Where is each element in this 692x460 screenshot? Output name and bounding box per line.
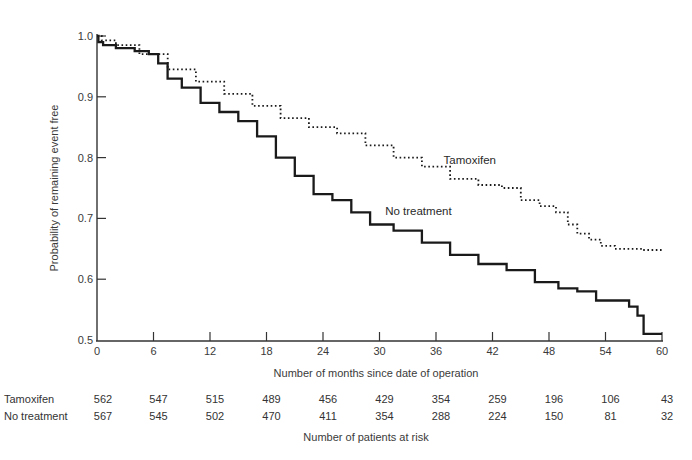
y-tick-label: 1.0 [78, 30, 93, 42]
x-tick-label: 12 [204, 345, 216, 357]
at-risk-value: 562 [94, 393, 112, 405]
series-label-no-treatment: No treatment [385, 205, 452, 217]
x-tick-label: 30 [373, 345, 385, 357]
y-tick-label: 0.7 [78, 212, 93, 224]
series-label-tamoxifen: Tamoxifen [444, 154, 496, 166]
x-axis-title: Number of months since date of operation [274, 367, 479, 379]
curve-no-treatment [97, 36, 662, 334]
y-tick-label: 0.5 [78, 334, 93, 346]
x-axis-ticks: 06121824303642485460 [94, 332, 668, 357]
at-risk-value: 470 [262, 410, 280, 422]
at-risk-value: 224 [488, 410, 506, 422]
at-risk-value: 456 [319, 393, 337, 405]
at-risk-value: 150 [545, 410, 563, 422]
x-tick-label: 6 [150, 345, 156, 357]
at-risk-value: 288 [432, 410, 450, 422]
x-tick-label: 18 [260, 345, 272, 357]
y-tick-label: 0.9 [78, 91, 93, 103]
x-tick-label: 24 [317, 345, 329, 357]
at-risk-value: 489 [262, 393, 280, 405]
survival-curves [97, 36, 662, 334]
patients-at-risk-table: Tamoxifen5625475154894564293542591961064… [4, 393, 673, 422]
x-tick-label: 36 [430, 345, 442, 357]
at-risk-value: 411 [319, 410, 337, 422]
y-tick-label: 0.8 [78, 152, 93, 164]
y-tick-label: 0.6 [78, 273, 93, 285]
at-risk-value: 429 [375, 393, 393, 405]
x-tick-label: 42 [486, 345, 498, 357]
at-risk-value: 354 [432, 393, 450, 405]
y-axis-ticks: 0.50.60.70.80.91.0 [78, 30, 106, 346]
at-risk-value: 515 [206, 393, 224, 405]
at-risk-value: 502 [206, 410, 224, 422]
at-risk-value: 545 [149, 410, 167, 422]
at-risk-value: 43 [661, 393, 673, 405]
kaplan-meier-chart: 0.50.60.70.80.91.0 06121824303642485460 … [0, 0, 692, 460]
at-risk-value: 259 [488, 393, 506, 405]
x-tick-label: 54 [599, 345, 611, 357]
at-risk-row-label: Tamoxifen [4, 393, 54, 405]
at-risk-value: 547 [149, 393, 167, 405]
at-risk-value: 196 [545, 393, 563, 405]
at-risk-table-title: Number of patients at risk [303, 431, 429, 443]
at-risk-row-label: No treatment [4, 410, 68, 422]
at-risk-value: 32 [661, 410, 673, 422]
x-tick-label: 0 [94, 345, 100, 357]
at-risk-value: 567 [94, 410, 112, 422]
at-risk-value: 81 [604, 410, 616, 422]
curve-tamoxifen [97, 36, 662, 250]
at-risk-value: 354 [375, 410, 393, 422]
y-axis-title: Probability of remaining event free [48, 105, 60, 272]
x-tick-label: 48 [543, 345, 555, 357]
x-tick-label: 60 [656, 345, 668, 357]
at-risk-value: 106 [601, 393, 619, 405]
